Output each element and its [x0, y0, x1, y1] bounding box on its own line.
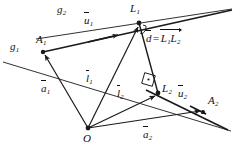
- distance-equation: d=L1L2: [146, 33, 180, 46]
- right-angle-mark-L2: [142, 73, 156, 87]
- label-vector-a2: a2: [143, 129, 152, 142]
- label-g1: g1: [10, 41, 19, 54]
- point-L2: [156, 91, 161, 96]
- label-vector-a1: a1: [41, 83, 50, 96]
- label-point-A1: A1: [36, 34, 46, 47]
- ray-u1-direction: [43, 10, 232, 52]
- label-point-L1: L1: [130, 3, 140, 16]
- vector-a1: [45, 55, 88, 128]
- label-g2: g2: [57, 4, 66, 17]
- arrow-u1: [88, 35, 118, 42]
- label-vector-l1: l1: [86, 73, 93, 86]
- label-vector-l2: l2: [117, 88, 124, 101]
- geometry-figure: [0, 0, 234, 155]
- point-O: [86, 126, 91, 131]
- diagram-canvas: g1 g2 A1 L1 L2 A2 O u1 u2 a1 a2 l1 l2 d=…: [0, 0, 234, 155]
- point-L1: [137, 21, 142, 26]
- label-vector-u1: u1: [84, 15, 93, 28]
- vector-l1: [88, 27, 138, 128]
- point-A2: [201, 110, 205, 114]
- label-point-A2: A2: [208, 95, 218, 108]
- label-vector-u2: u2: [178, 88, 187, 101]
- point-A1: [41, 50, 45, 54]
- label-point-L2: L2: [162, 83, 172, 96]
- label-point-O: O: [83, 133, 91, 144]
